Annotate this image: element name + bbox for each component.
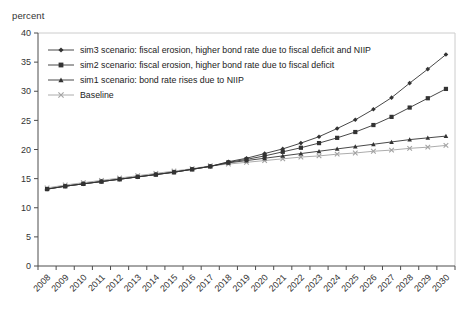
sim2-square-marker-icon: [46, 60, 76, 70]
y-axis-ticks: 0510152025303540: [21, 28, 38, 271]
legend-item-sim1: sim1 scenario: bond rate rises due to NI…: [46, 74, 371, 87]
legend-item-sim3: sim3 scenario: fiscal erosion, higher bo…: [46, 44, 371, 57]
x-tick-label: 2010: [68, 272, 89, 293]
sim1-triangle-marker-icon: [46, 75, 76, 85]
x-tick-label: 2026: [358, 272, 379, 293]
y-tick-label: 5: [26, 232, 31, 242]
y-tick-label: 40: [21, 28, 31, 38]
legend: sim3 scenario: fiscal erosion, higher bo…: [46, 44, 371, 102]
legend-label-sim2: sim2 scenario: fiscal erosion, higher bo…: [80, 60, 334, 70]
chart-figure: percent 05101520253035402008200920102011…: [0, 0, 469, 313]
y-tick-label: 0: [26, 261, 31, 271]
x-tick-label: 2008: [31, 272, 52, 293]
x-tick-label: 2016: [176, 272, 197, 293]
y-tick-label: 20: [21, 145, 31, 155]
y-tick-label: 35: [21, 57, 31, 67]
legend-label-sim3: sim3 scenario: fiscal erosion, higher bo…: [80, 45, 371, 55]
sim3-diamond-marker-icon: [46, 45, 76, 55]
legend-label-baseline: Baseline: [80, 90, 114, 100]
x-tick-label: 2009: [49, 272, 70, 293]
x-tick-label: 2021: [267, 272, 288, 293]
series-sim2: [45, 87, 448, 191]
y-tick-label: 30: [21, 86, 31, 96]
y-tick-label: 10: [21, 203, 31, 213]
legend-item-baseline: Baseline: [46, 89, 371, 102]
series-sim1: [45, 134, 448, 191]
x-axis-ticks: 2008200920102011201220132014201520162017…: [31, 266, 455, 294]
x-tick-label: 2023: [303, 272, 324, 293]
x-tick-label: 2015: [158, 272, 179, 293]
y-tick-label: 25: [21, 116, 31, 126]
x-tick-label: 2019: [231, 272, 252, 293]
y-tick-label: 15: [21, 174, 31, 184]
x-tick-label: 2020: [249, 272, 270, 293]
baseline-x-marker-icon: [46, 90, 76, 100]
x-tick-label: 2017: [194, 272, 215, 293]
x-tick-label: 2018: [213, 272, 234, 293]
x-tick-label: 2024: [321, 272, 342, 293]
x-tick-label: 2025: [339, 272, 360, 293]
x-tick-label: 2013: [122, 272, 143, 293]
x-tick-label: 2022: [285, 272, 306, 293]
x-tick-label: 2028: [394, 272, 415, 293]
x-tick-label: 2027: [376, 272, 397, 293]
legend-item-sim2: sim2 scenario: fiscal erosion, higher bo…: [46, 59, 371, 72]
x-tick-label: 2029: [412, 272, 433, 293]
legend-label-sim1: sim1 scenario: bond rate rises due to NI…: [80, 75, 244, 85]
series-baseline: [45, 143, 448, 190]
x-tick-label: 2012: [104, 272, 125, 293]
x-tick-label: 2030: [430, 272, 451, 293]
x-tick-label: 2014: [140, 272, 161, 293]
x-tick-label: 2011: [86, 272, 107, 293]
